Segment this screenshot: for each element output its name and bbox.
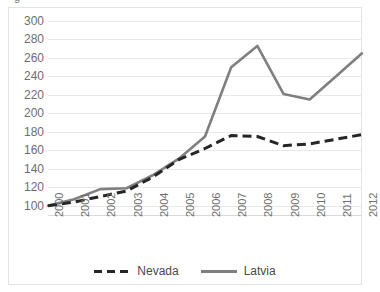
x-axis-tick-label: 2006 bbox=[198, 217, 212, 261]
y-axis-tick-label: 240 bbox=[0, 70, 44, 82]
x-axis-tick-text: 2008 bbox=[261, 193, 275, 217]
legend-label-nevada: Nevada bbox=[137, 265, 178, 277]
y-axis-labels: 100120140160180200220240260280300 bbox=[0, 21, 44, 215]
x-axis-tick-label: 2001 bbox=[67, 217, 81, 261]
x-axis-tick-label: 2007 bbox=[224, 217, 238, 261]
y-axis-tick-label: 260 bbox=[0, 52, 44, 64]
y-axis-tick-label: 280 bbox=[0, 33, 44, 45]
x-axis-tick-label: 2002 bbox=[93, 217, 107, 261]
x-axis-tick-text: 2004 bbox=[157, 193, 171, 217]
series-lines bbox=[48, 21, 362, 215]
chart-title-fragment: g bbox=[14, 0, 74, 3]
x-axis-tick-text: 2010 bbox=[314, 193, 328, 217]
x-axis-tick-text: 2009 bbox=[288, 193, 302, 217]
dashed-line-swatch-icon bbox=[94, 270, 130, 273]
y-axis-tick-label: 140 bbox=[0, 163, 44, 175]
x-axis-tick-label: 2009 bbox=[277, 217, 291, 261]
x-axis-tick-label: 2003 bbox=[120, 217, 134, 261]
y-axis-tick-label: 220 bbox=[0, 89, 44, 101]
y-axis-tick-label: 120 bbox=[0, 181, 44, 193]
x-axis-labels: 2000200120022003200420052006200720082009… bbox=[48, 217, 362, 261]
chart-legend: Nevada Latvia bbox=[8, 262, 362, 280]
x-axis-tick-label: 2005 bbox=[172, 217, 186, 261]
x-axis-tick-label: 2011 bbox=[329, 217, 343, 261]
y-axis-tick-label: 160 bbox=[0, 144, 44, 156]
plot-area bbox=[48, 21, 362, 215]
legend-item-nevada[interactable]: Nevada bbox=[94, 265, 178, 277]
x-axis-tick-label: 2004 bbox=[146, 217, 160, 261]
solid-line-swatch-icon bbox=[201, 270, 237, 273]
x-axis-tick-text: 2000 bbox=[52, 193, 66, 217]
legend-label-latvia: Latvia bbox=[244, 265, 276, 277]
x-axis-tick-label: 2008 bbox=[250, 217, 264, 261]
y-axis-tick-label: 300 bbox=[0, 15, 44, 27]
legend-item-latvia[interactable]: Latvia bbox=[201, 265, 276, 277]
series-line-latvia bbox=[48, 46, 362, 206]
x-axis-tick-text: 2003 bbox=[131, 193, 145, 217]
x-axis-tick-text: 2001 bbox=[78, 193, 92, 217]
x-axis-tick-text: 2011 bbox=[340, 193, 354, 217]
x-axis-tick-label: 2012 bbox=[355, 217, 369, 261]
x-axis-tick-text: 2006 bbox=[209, 193, 223, 217]
y-axis-tick-label: 100 bbox=[0, 200, 44, 212]
x-axis-tick-text: 2002 bbox=[104, 193, 118, 217]
y-axis-tick-label: 180 bbox=[0, 126, 44, 138]
x-axis-tick-text: 2012 bbox=[366, 193, 380, 217]
x-axis-tick-label: 2000 bbox=[41, 217, 55, 261]
x-axis-tick-text: 2007 bbox=[235, 193, 249, 217]
y-axis-tick-label: 200 bbox=[0, 107, 44, 119]
x-axis-tick-text: 2005 bbox=[183, 193, 197, 217]
x-axis-tick-label: 2010 bbox=[303, 217, 317, 261]
